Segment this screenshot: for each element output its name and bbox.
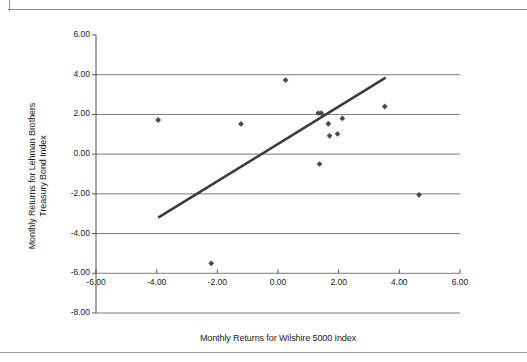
y-axis-tick-label: -6.00 — [40, 267, 90, 277]
y-axis-tick-label: 2.00 — [40, 108, 90, 118]
y-axis-tick-label: -4.00 — [40, 228, 90, 238]
data-point-marker — [339, 116, 345, 122]
x-axis-tick-label: -6.00 — [66, 277, 126, 287]
data-point-marker — [327, 133, 333, 139]
x-axis-tick-label: 6.00 — [430, 277, 490, 287]
x-axis-tick-label: -2.00 — [187, 277, 247, 287]
data-point-marker — [335, 131, 341, 137]
x-axis-tick-label: 2.00 — [309, 277, 369, 287]
data-point-marker — [325, 121, 331, 127]
data-point-marker — [208, 260, 214, 266]
data-point-marker — [238, 121, 244, 127]
y-axis-tick-label: 4.00 — [40, 69, 90, 79]
y-axis-tick-label: -2.00 — [40, 188, 90, 198]
x-axis-title: Monthly Returns for Wilshire 5000 Index — [96, 333, 460, 343]
data-point-marker — [382, 104, 388, 110]
y-axis-tick-label: -8.00 — [40, 307, 90, 317]
data-point-marker — [317, 161, 323, 167]
x-axis-tick-label: -4.00 — [127, 277, 187, 287]
data-point-marker — [283, 77, 289, 83]
data-point-marker — [155, 117, 161, 123]
y-axis-ticks-group — [92, 35, 96, 313]
y-axis-tick-label: 0.00 — [40, 148, 90, 158]
y-axis-tick-label: 6.00 — [40, 29, 90, 39]
x-axis-tick-label: 4.00 — [369, 277, 429, 287]
x-axis-ticks-group — [96, 269, 460, 273]
x-axis-tick-label: 0.00 — [248, 277, 308, 287]
scatter-chart-figure: Monthly Returns for Lehman Brothers Trea… — [0, 0, 527, 362]
data-points-group — [155, 77, 422, 266]
trend-line — [158, 78, 385, 218]
y-axis-title: Monthly Returns for Lehman Brothers Trea… — [27, 61, 49, 291]
data-point-marker — [416, 192, 422, 198]
